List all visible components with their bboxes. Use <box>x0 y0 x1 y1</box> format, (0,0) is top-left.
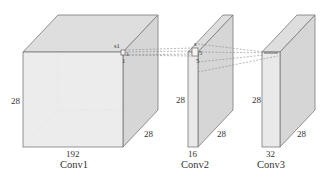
conv1-kernel-label-s: s1 <box>114 42 120 49</box>
conv3-height-label: 28 <box>252 95 262 105</box>
conv2-depth-label: 28 <box>217 129 227 139</box>
conv3-depth-label: 28 <box>297 129 307 139</box>
conv2-front-face <box>188 52 198 147</box>
conv2-kernel-label-h: 5 <box>196 57 199 64</box>
conv2-height-label: 28 <box>176 95 186 105</box>
conv2-title: Conv2 <box>181 159 209 170</box>
conv3-volume <box>262 15 315 147</box>
conv2-volume <box>188 15 233 147</box>
conv3-title: Conv3 <box>257 159 285 170</box>
conv1-depth-label: 28 <box>144 129 154 139</box>
conv1-kernel-label-w: 1 <box>126 50 129 57</box>
conv1-height-label: 28 <box>11 96 21 106</box>
conv1-volume <box>23 15 158 147</box>
conv2-kernel <box>192 48 198 56</box>
conv1-front-face <box>23 52 123 147</box>
conv1-title: Conv1 <box>60 159 88 170</box>
conv1-kernel <box>121 50 125 55</box>
cnn-diagram: s1 1 1 28 192 28 Conv1 s 5 5 28 16 28 Co… <box>0 0 326 181</box>
conv3-front-face <box>262 52 280 147</box>
conv1-width-label: 192 <box>66 149 80 159</box>
conv2-kernel-label-w: 5 <box>199 49 202 56</box>
conv2-side-face <box>198 15 233 147</box>
conv1-kernel-label-h: 1 <box>122 57 125 64</box>
conv2-width-label: 16 <box>188 149 198 159</box>
conv3-width-label: 32 <box>266 149 275 159</box>
